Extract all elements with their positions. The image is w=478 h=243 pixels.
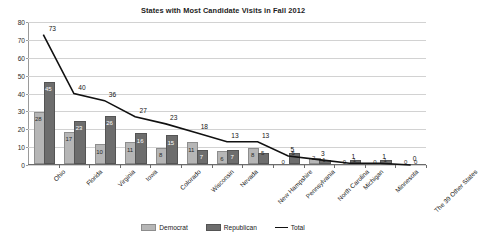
- y-axis-tick-mark: [26, 58, 29, 59]
- gridline: [28, 58, 426, 59]
- y-axis-tick-label: 10: [18, 144, 25, 151]
- total-value-label: 73: [49, 25, 56, 32]
- y-axis-tick-mark: [26, 76, 29, 77]
- legend-label: Republican: [224, 224, 257, 231]
- y-axis-tick-label: 40: [18, 90, 25, 97]
- x-axis-label: The 39 Other States: [433, 168, 478, 214]
- bar-value-label: 45: [42, 86, 56, 92]
- legend-item-total[interactable]: Total: [275, 224, 305, 231]
- bar-value-label: 15: [164, 140, 178, 146]
- y-axis-tick-mark: [26, 22, 29, 23]
- y-axis-tick-label: 50: [18, 72, 25, 79]
- x-axis-label: Ohio: [52, 168, 66, 182]
- total-value-label: 18: [201, 123, 208, 130]
- y-axis-tick-mark: [26, 94, 29, 95]
- gridline: [28, 111, 426, 112]
- y-axis-tick-mark: [26, 165, 29, 166]
- bar-value-label: 7: [195, 154, 209, 160]
- total-value-label: 0: [413, 155, 417, 162]
- legend-item-democrat[interactable]: Democrat: [141, 224, 188, 231]
- x-axis-label: Nevada: [238, 168, 259, 189]
- gridline: [28, 40, 426, 41]
- gridline: [28, 94, 426, 95]
- y-axis-tick-label: 70: [18, 36, 25, 43]
- y-axis-tick-mark: [26, 147, 29, 148]
- x-axis-tick-mark: [426, 165, 427, 168]
- plot-area: 01020304050607080 2845172310261116815117…: [28, 22, 426, 165]
- y-axis-tick-label: 30: [18, 108, 25, 115]
- total-value-label: 1: [382, 153, 386, 160]
- legend-swatch-rep-icon: [206, 224, 221, 231]
- bar-value-label: 23: [72, 125, 86, 131]
- x-axis-label: Wisconsin: [210, 168, 236, 194]
- total-value-label: 36: [109, 91, 116, 98]
- y-axis-tick-mark: [26, 111, 29, 112]
- total-value-label: 23: [170, 114, 177, 121]
- y-axis-tick-label: 60: [18, 54, 25, 61]
- chart-title: States with Most Candidate Visits in Fal…: [0, 6, 446, 15]
- bar-value-label: 16: [133, 138, 147, 144]
- gridline: [28, 76, 426, 77]
- x-axis-label: Colorado: [178, 168, 201, 191]
- x-axis-label: Minnesota: [394, 168, 420, 194]
- y-axis-tick-label: 80: [18, 19, 25, 26]
- bar-value-label: 26: [103, 120, 117, 126]
- gridline: [28, 22, 426, 23]
- x-axis-label: Virginia: [116, 168, 136, 188]
- total-value-label: 40: [78, 84, 85, 91]
- total-value-label: 1: [352, 153, 356, 160]
- x-axis-label: Florida: [85, 168, 104, 187]
- x-axis-label: New Hampshire: [276, 168, 313, 205]
- legend-item-republican[interactable]: Republican: [206, 224, 257, 231]
- legend-swatch-dem-icon: [141, 224, 156, 231]
- total-value-label: 27: [139, 107, 146, 114]
- legend-label: Total: [291, 224, 305, 231]
- gridline: [28, 165, 426, 166]
- total-value-label: 3: [321, 150, 325, 157]
- legend-swatch-line-icon: [275, 227, 288, 228]
- chart-legend: DemocratRepublicanTotal: [0, 224, 446, 231]
- total-value-label: 13: [262, 132, 269, 139]
- bar-value-label: 7: [225, 154, 239, 160]
- gridline: [28, 147, 426, 148]
- y-axis-tick-label: 0: [21, 162, 25, 169]
- bar-value-label: 1: [317, 157, 331, 163]
- legend-label: Democrat: [159, 224, 188, 231]
- bar-value-label: 5: [256, 150, 270, 156]
- x-axis-labels: OhioFloridaVirginiaIowaColoradoWisconsin…: [28, 168, 426, 220]
- y-axis-tick-label: 20: [18, 126, 25, 133]
- y-axis-tick-mark: [26, 129, 29, 130]
- gridline: [28, 129, 426, 130]
- total-value-label: 13: [231, 132, 238, 139]
- y-axis-tick-mark: [26, 40, 29, 41]
- bar-republican: [44, 82, 56, 164]
- x-axis-label: Iowa: [144, 168, 158, 182]
- total-value-label: 5: [290, 146, 294, 153]
